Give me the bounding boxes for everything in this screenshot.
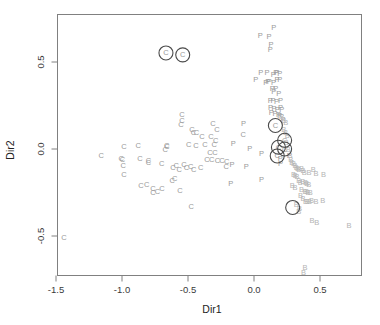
x-tick-label: -1.5 bbox=[48, 284, 64, 295]
data-point-P: P bbox=[259, 175, 264, 184]
data-point-C: C bbox=[61, 233, 67, 242]
plot-canvas: CCCCCCCCCCCCCCCCCCCCCCCCCCCCCCCCCCCCCCCC… bbox=[0, 0, 380, 325]
data-point-P: P bbox=[247, 144, 252, 153]
data-point-C: C bbox=[193, 141, 199, 150]
data-point-C: C bbox=[180, 50, 186, 59]
data-point-P: P bbox=[277, 75, 282, 84]
x-tick-label: -0.5 bbox=[180, 284, 196, 295]
data-point-P: P bbox=[264, 68, 269, 77]
data-point-B: B bbox=[321, 170, 326, 179]
data-point-P: P bbox=[268, 45, 273, 54]
data-point-P: P bbox=[253, 75, 258, 84]
data-point-P: P bbox=[228, 179, 233, 188]
data-point-C: C bbox=[137, 154, 143, 163]
scatter-plot-figure: CCCCCCCCCCCCCCCCCCCCCCCCCCCCCCCCCCCCCCCC… bbox=[0, 0, 380, 325]
data-point-C: C bbox=[273, 121, 279, 130]
data-point-B: B bbox=[301, 268, 306, 277]
data-point-C: C bbox=[199, 132, 205, 141]
data-point-C: C bbox=[163, 48, 169, 57]
data-point-B: B bbox=[314, 169, 319, 178]
data-point-B: B bbox=[314, 197, 319, 206]
data-point-C: C bbox=[136, 141, 142, 150]
data-point-P: P bbox=[244, 162, 249, 171]
data-point-C: C bbox=[240, 130, 246, 139]
data-point-P: P bbox=[231, 139, 236, 148]
data-point-B: B bbox=[347, 221, 352, 230]
data-point-C: C bbox=[186, 140, 192, 149]
data-point-C: C bbox=[146, 158, 152, 167]
data-point-C: C bbox=[214, 125, 220, 134]
data-point-C: C bbox=[159, 159, 165, 168]
y-axis-title: Dir2 bbox=[4, 140, 16, 159]
data-point-B: B bbox=[292, 183, 297, 192]
data-point-C: C bbox=[172, 174, 178, 183]
data-point-C: C bbox=[191, 165, 197, 174]
x-axis-title: Dir1 bbox=[202, 303, 221, 315]
data-point-B: B bbox=[320, 196, 325, 205]
y-tick-label: -0.5 bbox=[35, 228, 46, 244]
data-point-C: C bbox=[121, 170, 127, 179]
data-point-B: B bbox=[314, 218, 319, 227]
data-point-C: C bbox=[189, 202, 195, 211]
data-point-C: C bbox=[120, 161, 126, 170]
data-point-P: P bbox=[258, 68, 263, 77]
data-point-P: P bbox=[258, 31, 263, 40]
data-point-C: C bbox=[178, 120, 184, 129]
data-point-P: P bbox=[229, 160, 234, 169]
data-point-C: C bbox=[163, 145, 169, 154]
data-point-C: C bbox=[99, 151, 105, 160]
y-tick-label: 0.0 bbox=[35, 142, 46, 155]
x-tick-label: 0.0 bbox=[247, 284, 260, 295]
data-point-C: C bbox=[177, 186, 183, 195]
data-point-C: C bbox=[198, 163, 204, 172]
data-point-P: P bbox=[271, 23, 276, 32]
data-point-P: P bbox=[259, 149, 264, 158]
x-tick-label: -1.0 bbox=[114, 284, 130, 295]
data-point-C: C bbox=[121, 142, 127, 151]
x-tick-label: 0.5 bbox=[313, 284, 326, 295]
data-point-C: C bbox=[159, 184, 165, 193]
data-point-P: P bbox=[241, 119, 246, 128]
y-tick-label: 0.5 bbox=[35, 55, 46, 68]
